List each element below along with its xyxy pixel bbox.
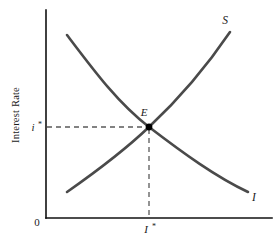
equilibrium-point-marker	[146, 124, 153, 131]
y-tick-label-i-star: i *	[31, 120, 42, 133]
investment-curve-label: I	[251, 191, 257, 203]
supply-curve-label: S	[222, 14, 228, 26]
y-tick-label-star: *	[38, 120, 42, 129]
x-tick-label-i-star: I *	[143, 222, 156, 235]
equilibrium-label: E	[140, 106, 148, 118]
x-tick-label-base: I	[143, 223, 149, 235]
origin-label: 0	[34, 216, 40, 228]
y-axis-title: Interest Rate	[10, 87, 21, 143]
investment-curve	[67, 35, 248, 192]
equilibrium-chart: E S I 0 i * I * Interest Rate	[0, 0, 280, 245]
y-tick-label-base: i	[31, 121, 34, 133]
x-tick-label-star: *	[152, 222, 156, 231]
figure-root: E S I 0 i * I * Interest Rate	[0, 0, 280, 245]
